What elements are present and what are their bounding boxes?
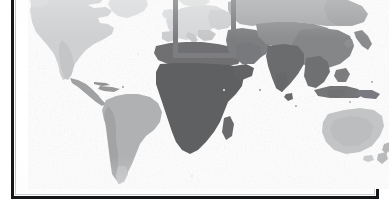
island-speck-5 — [223, 89, 225, 91]
europe-region-highlight-box[interactable] — [173, 0, 236, 58]
figure-frame-border — [11, 0, 379, 199]
world-map-plate — [28, 0, 389, 189]
world-map-figure: Grayscale world map with a gray rectangu… — [0, 0, 389, 208]
island-speck-3 — [259, 89, 261, 91]
island-speck-7 — [349, 101, 351, 103]
island-speck-4 — [295, 105, 297, 107]
island-speck-8 — [191, 175, 193, 177]
island-speck-9 — [137, 53, 139, 55]
island-speck-6 — [371, 81, 373, 83]
island-speck-2 — [122, 86, 124, 88]
island-speck-1 — [87, 89, 89, 91]
